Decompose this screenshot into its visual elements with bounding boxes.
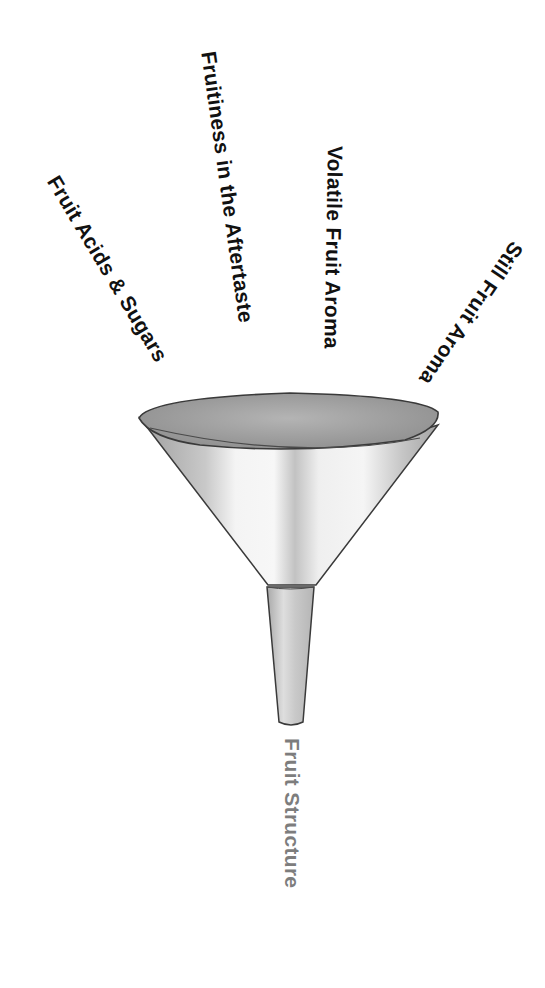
funnel-tube xyxy=(267,587,314,725)
funnel-icon xyxy=(0,0,545,988)
funnel-rim xyxy=(139,393,438,449)
funnel-diagram: Fruit Acids & Sugars Fruitiness in the A… xyxy=(0,0,545,988)
output-label-fruit-structure: Fruit Structure xyxy=(282,738,303,888)
input-label-volatile-fruit-aroma: Volatile Fruit Aroma xyxy=(321,146,346,350)
